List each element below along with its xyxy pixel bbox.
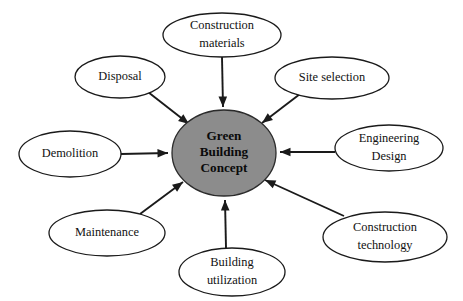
node-disposal[interactable]: Disposal xyxy=(75,56,165,98)
node-label-disposal-line-1: Disposal xyxy=(98,69,142,83)
node-label-building-utilization-line-2: utilization xyxy=(207,273,257,287)
node-label-construction-materials-line-2: materials xyxy=(199,36,245,50)
center-node[interactable]: Green Building Concept xyxy=(172,110,276,196)
node-label-construction-technology-line-1: Construction xyxy=(353,220,417,234)
arrow-head-demolition xyxy=(157,149,168,158)
center-label-line-2: Building xyxy=(200,144,249,159)
node-engineering-design[interactable]: EngineeringDesign xyxy=(335,125,443,171)
arrow-head-construction-materials xyxy=(218,96,227,107)
node-demolition[interactable]: Demolition xyxy=(19,131,121,177)
node-construction-materials[interactable]: Constructionmaterials xyxy=(163,13,281,57)
center-label-line-1: Green xyxy=(207,128,243,143)
node-label-maintenance-line-1: Maintenance xyxy=(75,225,139,239)
node-label-demolition-line-1: Demolition xyxy=(42,146,98,160)
arrow-head-site-selection xyxy=(262,113,273,123)
node-maintenance[interactable]: Maintenance xyxy=(49,210,165,256)
center-label-line-3: Concept xyxy=(201,160,248,175)
node-label-construction-materials-line-1: Construction xyxy=(190,18,254,32)
node-label-construction-technology-line-2: technology xyxy=(357,238,413,252)
node-label-engineering-design-line-2: Design xyxy=(371,149,406,163)
node-label-building-utilization-line-1: Building xyxy=(210,255,253,269)
node-label-site-selection-line-1: Site selection xyxy=(299,70,365,84)
arrow-head-maintenance xyxy=(172,182,183,192)
arrow-head-construction-technology xyxy=(265,180,276,188)
connector-construction-technology xyxy=(265,180,344,216)
node-site-selection[interactable]: Site selection xyxy=(275,57,389,99)
concept-diagram: ConstructionmaterialsDisposalSite select… xyxy=(0,0,463,301)
arrow-head-building-utilization xyxy=(221,200,230,211)
concept-map-canvas: ConstructionmaterialsDisposalSite select… xyxy=(0,0,463,301)
node-label-engineering-design-line-1: Engineering xyxy=(359,131,420,145)
node-construction-technology[interactable]: Constructiontechnology xyxy=(323,212,447,262)
node-building-utilization[interactable]: Buildingutilization xyxy=(179,248,285,296)
arrow-head-engineering-design xyxy=(280,148,291,157)
